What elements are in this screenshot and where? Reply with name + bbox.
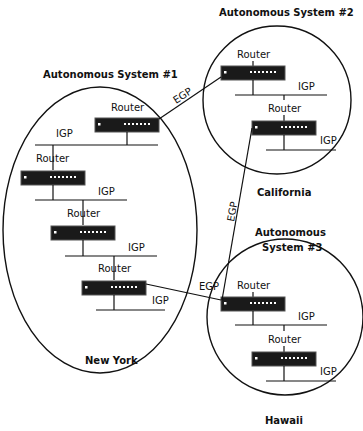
svg-text:IGP: IGP [98,186,115,197]
svg-text:Router: Router [36,153,70,164]
svg-text:IGP: IGP [56,128,73,139]
as2-location: California [257,187,311,198]
svg-text:IGP: IGP [320,366,337,377]
router-icon [51,226,115,240]
svg-text:Router: Router [268,103,302,114]
network-diagram: Autonomous System #1 Autonomous System #… [0,0,363,431]
as2-title: Autonomous System #2 [219,7,354,18]
as3-boundary [207,239,363,395]
as2-boundary [203,26,351,174]
svg-text:IGP: IGP [128,242,145,253]
svg-text:Router: Router [237,49,271,60]
svg-text:EGP: EGP [199,281,219,292]
as3-title-line2: System #3 [262,242,323,253]
svg-text:Router: Router [237,280,271,291]
svg-text:IGP: IGP [298,81,315,92]
svg-text:Router: Router [268,334,302,345]
as3-location: Hawaii [265,415,303,426]
router-icon [221,297,285,311]
router-icon [21,171,85,185]
svg-text:EGP: EGP [225,201,239,223]
as1-location: New York [85,355,138,366]
svg-text:IGP: IGP [298,311,315,322]
svg-text:Router: Router [67,208,101,219]
router-label: Router [111,102,145,113]
router-icon [252,121,316,135]
router-icon [82,281,146,295]
router-icon [221,66,285,80]
svg-text:Router: Router [98,263,132,274]
svg-text:IGP: IGP [320,135,337,146]
egp-link-as1-as2 [159,77,221,119]
as1-title: Autonomous System #1 [43,69,178,80]
router-icon [95,118,159,132]
router-icon [252,352,316,366]
svg-text:IGP: IGP [152,295,169,306]
as3-title-line1: Autonomous [255,227,326,238]
